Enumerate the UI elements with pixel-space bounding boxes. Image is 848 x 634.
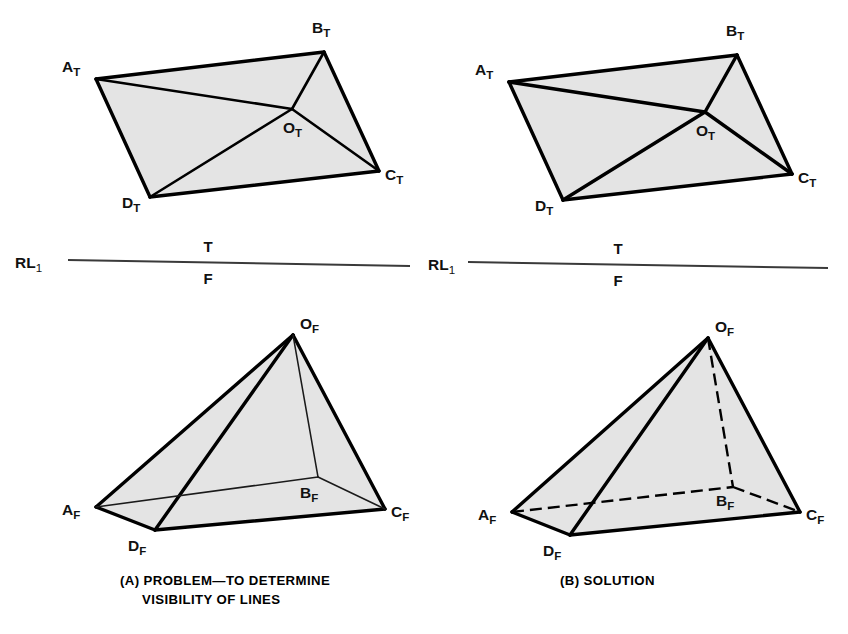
technical-drawing-canvas: ATBTCTDTOTRL1TFAFBFCFDFOFATBTCTDTOTRL1TF… [0, 0, 848, 634]
caption-line-1: (A) PROBLEM—TO DETERMINE [120, 573, 330, 588]
plane-label-front: F [203, 270, 212, 287]
figure-root: ATBTCTDTOTRL1TFAFBFCFDFOFATBTCTDTOTRL1TF… [0, 0, 848, 634]
caption-line-1: (B) SOLUTION [560, 573, 655, 588]
caption-line-2: VISIBILITY OF LINES [142, 592, 281, 607]
plane-label-top: T [203, 238, 212, 255]
plane-label-top: T [613, 240, 622, 257]
panel-b-caption: (B) SOLUTION [560, 573, 655, 588]
plane-label-front: F [613, 272, 622, 289]
